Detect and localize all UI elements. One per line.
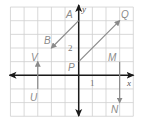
y-axis-label: y bbox=[81, 4, 86, 14]
x-tick-label: 1 bbox=[90, 78, 95, 88]
y-tick-label: 2 bbox=[68, 43, 73, 53]
coordinate-plane: x y 1 2 A B P Q M N U V bbox=[0, 0, 141, 124]
label-p: P bbox=[68, 62, 75, 73]
label-m: M bbox=[108, 52, 117, 63]
label-a: A bbox=[65, 9, 73, 20]
label-b: B bbox=[44, 35, 51, 46]
x-axis-label: x bbox=[126, 78, 131, 88]
label-u: U bbox=[30, 92, 38, 103]
label-q: Q bbox=[121, 9, 129, 20]
label-n: N bbox=[111, 104, 119, 115]
